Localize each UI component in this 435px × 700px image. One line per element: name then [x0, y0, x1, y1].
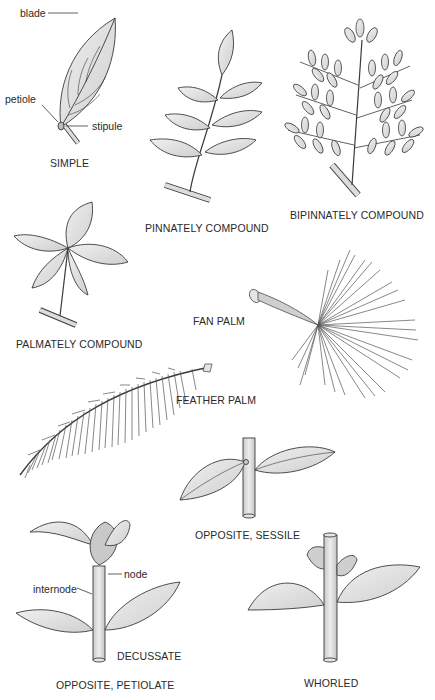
label-simple: SIMPLE — [50, 157, 89, 169]
whorled-drawing — [248, 533, 420, 662]
fan-palm-drawing — [247, 250, 418, 398]
label-decussate: DECUSSATE — [117, 650, 181, 662]
feather-palm-drawing — [20, 364, 212, 478]
label-petiole: petiole — [5, 93, 36, 105]
label-stipule: stipule — [92, 120, 122, 132]
label-palmately-compound: PALMATELY COMPOUND — [16, 338, 142, 350]
opposite-sessile-drawing — [180, 438, 335, 518]
label-blade: blade — [20, 7, 46, 19]
label-pinnately-compound: PINNATELY COMPOUND — [145, 222, 269, 234]
label-bipinnately-compound: BIPINNATELY COMPOUND — [290, 209, 424, 221]
pinnately-compound-drawing — [150, 30, 262, 200]
label-whorled: WHORLED — [304, 677, 358, 689]
label-feather-palm: FEATHER PALM — [176, 394, 256, 406]
label-opposite-petiolate: OPPOSITE, PETIOLATE — [56, 679, 174, 691]
bipinnately-compound-drawing — [283, 19, 424, 195]
palmately-compound-drawing — [14, 202, 128, 325]
label-fan-palm: FAN PALM — [193, 315, 245, 327]
label-opposite-sessile: OPPOSITE, SESSILE — [195, 529, 300, 541]
leaf-illustrations — [0, 0, 435, 700]
label-internode: internode — [33, 583, 77, 595]
label-node: node — [124, 568, 147, 580]
